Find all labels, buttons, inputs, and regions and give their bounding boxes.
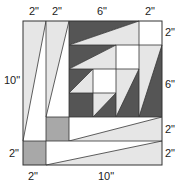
center-row-2 [69, 45, 139, 69]
label-bottom-1: 2" [28, 170, 38, 182]
label-top-3: 6" [97, 5, 107, 17]
label-top-1: 2" [29, 5, 39, 17]
label-top-4: 2" [145, 5, 155, 17]
center-top-strip [69, 21, 139, 45]
center-col-strip [116, 69, 139, 117]
label-bottom-2: 10" [98, 170, 114, 182]
quilt-block-diagram: 2" 2" 6" 2" 2" 6" 2" 2" 10" 2" 2" 10" [0, 0, 187, 188]
top-right-square [139, 21, 162, 45]
center-row-4 [69, 93, 116, 117]
label-left-1: 10" [4, 74, 20, 86]
corner-square-inner [46, 117, 69, 141]
label-right-4: 2" [165, 147, 175, 159]
label-left-2: 2" [9, 147, 19, 159]
right-strip [139, 45, 162, 117]
label-top-2: 2" [52, 5, 62, 17]
label-right-2: 6" [165, 78, 175, 90]
corner-square-outer [23, 141, 46, 165]
left-strip-2 [46, 21, 69, 117]
center-row-3 [69, 69, 116, 93]
bottom-strip-2 [46, 141, 162, 165]
label-right-3: 2" [165, 123, 175, 135]
label-right-1: 2" [165, 26, 175, 38]
bottom-strip-1 [69, 117, 162, 141]
left-strip-1 [23, 21, 46, 141]
